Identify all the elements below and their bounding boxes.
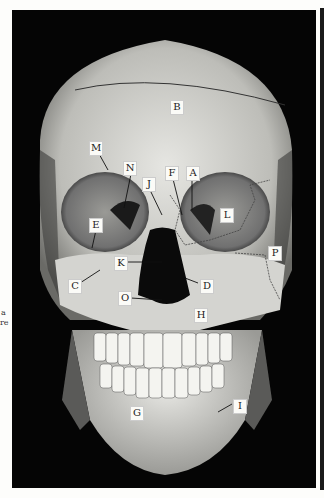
label-n: N: [123, 161, 137, 176]
label-a: A: [186, 166, 200, 181]
margin-text-fragment-1: a: [1, 308, 6, 318]
label-e: E: [89, 218, 103, 233]
label-d: D: [200, 279, 214, 294]
margin-text-fragment-2: re: [0, 318, 9, 328]
adjacent-page-edge: [320, 8, 324, 490]
label-o: O: [118, 291, 132, 306]
label-c: C: [68, 279, 82, 294]
label-h: H: [194, 308, 208, 323]
skull-photograph: A B C D E F G H I J K L M N O P: [12, 10, 316, 488]
label-f: F: [165, 166, 179, 181]
label-i: I: [233, 399, 247, 414]
label-l: L: [220, 208, 234, 223]
label-m: M: [89, 141, 103, 156]
label-j: J: [142, 177, 156, 192]
label-k: K: [114, 256, 128, 271]
label-p: P: [268, 246, 282, 261]
label-b: B: [170, 100, 184, 115]
label-g: G: [130, 406, 144, 421]
